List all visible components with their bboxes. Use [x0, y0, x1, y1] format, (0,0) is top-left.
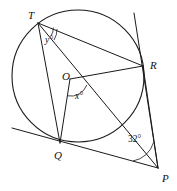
point-label-P: P: [161, 172, 169, 184]
geometry-diagram: T R Q O P y° x° 32°: [0, 0, 177, 191]
angle-label-32: 32°: [128, 134, 142, 144]
geometry-canvas: T R Q O P y° x° 32°: [0, 0, 177, 191]
point-label-Q: Q: [54, 149, 62, 161]
circle-outline: [12, 10, 144, 142]
angle-label-y: y°: [44, 35, 53, 45]
point-label-O: O: [62, 70, 70, 82]
segment-TP: [38, 23, 158, 168]
segment-OR: [70, 66, 143, 79]
segment-TR: [38, 23, 143, 66]
point-label-R: R: [149, 59, 157, 71]
point-label-T: T: [28, 9, 35, 21]
segment-OQ: [60, 79, 70, 143]
angle-label-x: x°: [74, 91, 83, 101]
